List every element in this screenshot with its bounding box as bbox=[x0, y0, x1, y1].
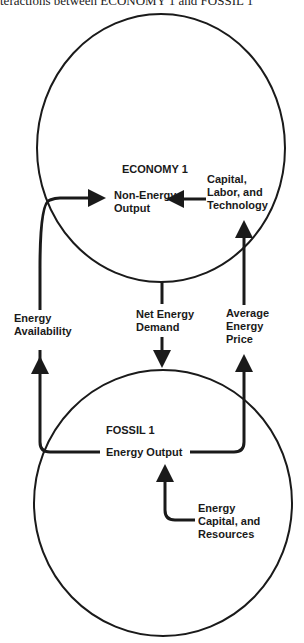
energy-capital-resources-label: Energy Capital, and Resources bbox=[198, 502, 260, 541]
energy-availability-arrow bbox=[40, 362, 100, 452]
price-lower-arrow bbox=[190, 360, 244, 452]
capital-labor-technology-label: Capital, Labor, and Technology bbox=[207, 173, 268, 212]
energy-availability-label: Energy Availability bbox=[14, 312, 72, 338]
economy-title: ECONOMY 1 bbox=[122, 163, 188, 176]
average-energy-price-label: Average Energy Price bbox=[226, 307, 269, 346]
resources-to-output-arrow bbox=[165, 470, 195, 520]
energy-output-label: Energy Output bbox=[106, 446, 182, 459]
energy-availability-upper-arrow bbox=[40, 198, 100, 310]
non-energy-output-label: Non-Energy Output bbox=[114, 189, 176, 215]
net-energy-demand-label: Net Energy Demand bbox=[136, 308, 194, 334]
fossil-title: FOSSIL 1 bbox=[106, 424, 155, 437]
economy-circle bbox=[37, 14, 285, 282]
